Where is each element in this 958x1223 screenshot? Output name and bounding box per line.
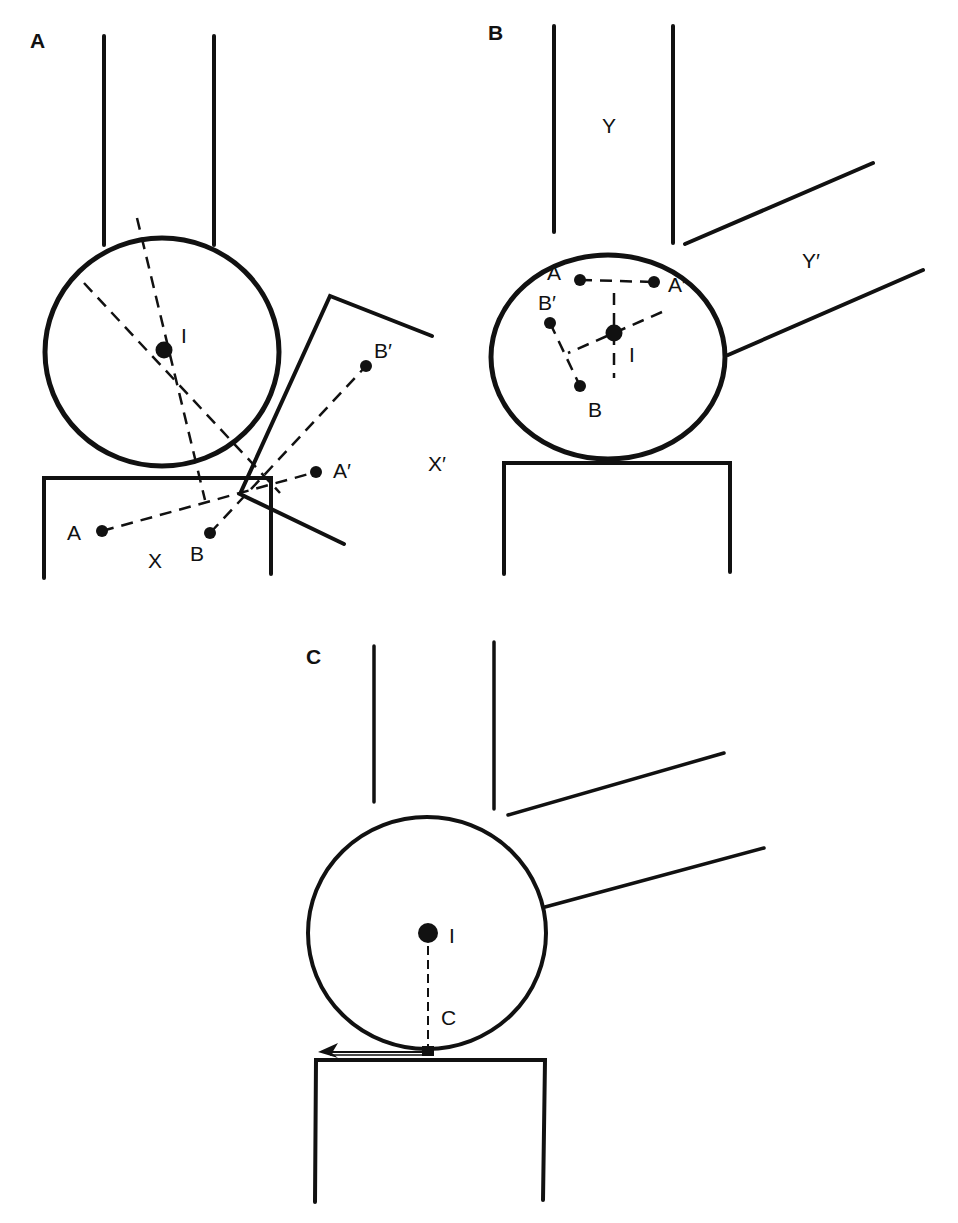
panel-b-label: B: [488, 21, 503, 44]
label-a-prime: A′: [668, 273, 686, 296]
instant-center-point: [606, 325, 623, 342]
instant-center-point: [156, 342, 173, 359]
segment-y-prime-upper: [685, 163, 873, 244]
lower-segment: [315, 1060, 545, 1202]
label-a: A: [67, 521, 81, 544]
label-i: I: [181, 324, 187, 347]
label-y-prime: Y′: [802, 249, 820, 272]
moving-segment-lower: [545, 848, 764, 907]
instant-center-point: [418, 923, 438, 943]
point-a: [96, 525, 108, 537]
instant-center-diagram: A I A B A′ B′ X X′ B: [0, 0, 958, 1223]
bisector-line-1: [137, 218, 205, 500]
arrow-left-icon: [318, 1043, 338, 1058]
point-b-prime: [360, 360, 372, 372]
chord-a-a-prime: [102, 472, 316, 531]
segment-y-prime-lower: [728, 270, 923, 355]
point-b: [204, 527, 216, 539]
label-b: B: [588, 398, 602, 421]
label-a-prime: A′: [333, 459, 351, 482]
point-b: [574, 380, 586, 392]
segment-x-prime: [240, 296, 432, 544]
panel-b: B Y Y′ A A′ B′ B I: [488, 21, 923, 574]
panel-c-label: C: [306, 645, 321, 668]
point-a-prime: [310, 466, 322, 478]
label-b-prime: B′: [538, 291, 556, 314]
moving-segment-upper: [508, 753, 724, 815]
panel-a: A I A B A′ B′ X X′: [30, 29, 446, 578]
chord-b-b-prime: [550, 323, 580, 386]
label-c: C: [441, 1006, 456, 1029]
label-x-prime: X′: [428, 452, 446, 475]
point-a-prime: [648, 276, 660, 288]
bisector-line-2: [84, 283, 280, 493]
label-i: I: [449, 924, 455, 947]
label-b: B: [190, 542, 204, 565]
panel-c: C I C: [306, 642, 764, 1202]
label-y: Y: [602, 114, 616, 137]
chord-a-a-prime: [580, 280, 654, 282]
point-b-prime: [544, 317, 556, 329]
lower-segment: [504, 463, 730, 574]
label-b-prime: B′: [374, 339, 392, 362]
label-x: X: [148, 549, 162, 572]
point-a: [574, 274, 586, 286]
panel-a-label: A: [30, 29, 45, 52]
joint-circle: [491, 255, 725, 459]
label-i: I: [629, 343, 635, 366]
label-a: A: [547, 261, 561, 284]
